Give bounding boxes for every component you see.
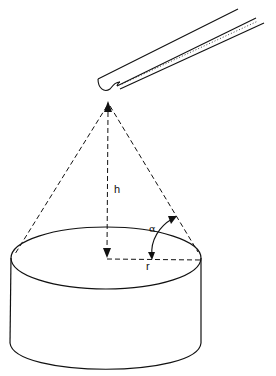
radius-indicator <box>107 259 201 260</box>
height-indicator <box>103 112 111 258</box>
diagram-canvas: h α r <box>0 0 276 376</box>
height-label: h <box>114 183 120 195</box>
angle-label: α <box>149 223 156 234</box>
nozzle-pipe <box>98 9 264 90</box>
radius-label: r <box>146 260 150 272</box>
spray-cone <box>15 106 198 254</box>
